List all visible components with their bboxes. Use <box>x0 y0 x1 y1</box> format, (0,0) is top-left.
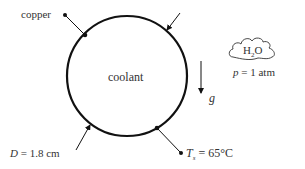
gravity-label: g <box>209 91 215 106</box>
diagram-canvas <box>0 0 305 169</box>
copper-label: copper <box>21 8 51 20</box>
fluid-label: H2O <box>243 44 262 59</box>
diameter-label: D = 1.8 cm <box>10 147 60 159</box>
diameter-arrow <box>76 125 90 150</box>
surface-temp-label: Ts = 65°C <box>186 146 233 162</box>
pressure-value: = 1 atm <box>241 66 275 78</box>
fluid-o: O <box>254 44 262 56</box>
diameter-value: = 1.8 cm <box>21 147 60 159</box>
copper-leader <box>63 13 87 37</box>
temp-value: = 65°C <box>198 146 233 160</box>
coolant-label: coolant <box>108 70 143 85</box>
temp-sub: s <box>193 154 196 162</box>
surface-temp-leader <box>155 126 183 155</box>
diameter-symbol: D <box>10 147 18 159</box>
inner-surface-arrow <box>167 13 180 30</box>
gravity-symbol: g <box>209 91 215 105</box>
temp-symbol: T <box>186 146 193 160</box>
pressure-symbol: p <box>233 66 239 78</box>
fluid-h: H <box>243 44 251 56</box>
pressure-label: p = 1 atm <box>233 66 275 78</box>
